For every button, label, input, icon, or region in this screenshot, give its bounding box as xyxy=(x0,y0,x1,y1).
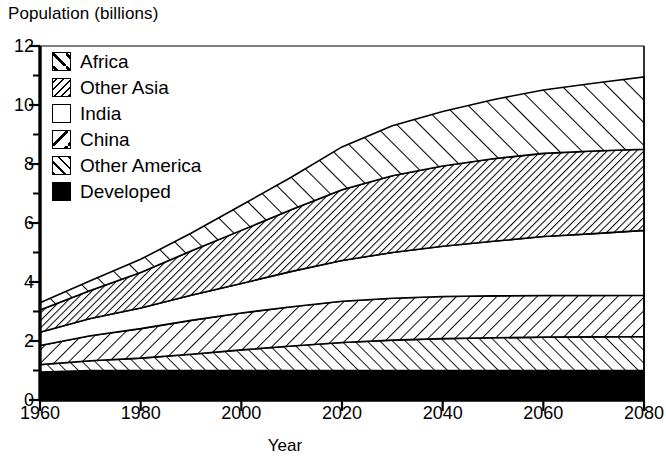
legend-label-other-asia: Other Asia xyxy=(80,78,169,97)
x-axis-title-text: Year xyxy=(268,436,302,455)
legend-item-other-asia[interactable]: Other Asia xyxy=(52,74,201,100)
x-tick-2000: 2000 xyxy=(221,404,261,422)
developed-swatch-icon xyxy=(52,182,71,201)
x-tick-2040: 2040 xyxy=(423,404,463,422)
x-axis-title: Year xyxy=(0,436,666,456)
legend-item-china[interactable]: China xyxy=(52,126,201,152)
legend-item-africa[interactable]: Africa xyxy=(52,48,201,74)
x-tick-1980: 1980 xyxy=(121,404,161,422)
legend-label-developed: Developed xyxy=(80,182,171,201)
legend-label-china: China xyxy=(80,130,130,149)
x-tick-2080: 2080 xyxy=(624,404,664,422)
legend-item-developed[interactable]: Developed xyxy=(52,178,201,204)
x-tick-2020: 2020 xyxy=(322,404,362,422)
legend-item-other-america[interactable]: Other America xyxy=(52,152,201,178)
x-tick-1960: 1960 xyxy=(20,404,60,422)
other-asia-swatch-icon xyxy=(52,78,71,97)
africa-swatch-icon xyxy=(52,52,71,71)
legend-label-other-america: Other America xyxy=(80,156,201,175)
chart-legend: Africa Other Asia India China Other Amer… xyxy=(52,48,201,204)
x-tick-2060: 2060 xyxy=(523,404,563,422)
india-swatch-icon xyxy=(52,104,71,123)
other-america-swatch-icon xyxy=(52,156,71,175)
legend-label-africa: Africa xyxy=(80,52,129,71)
legend-label-india: India xyxy=(80,104,121,123)
chart-figure: Population (billions) 12 10 8 6 4 2 0 xyxy=(0,0,666,472)
china-swatch-icon xyxy=(52,130,71,149)
legend-item-india[interactable]: India xyxy=(52,100,201,126)
area-band-developed xyxy=(40,371,644,401)
